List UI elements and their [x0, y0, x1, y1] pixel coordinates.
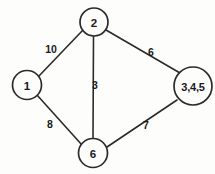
edge-2-345: [106, 30, 180, 73]
edge-weight-1-6: 8: [47, 118, 53, 130]
edge-6-345: [107, 100, 177, 147]
edge-weight-1-2: 10: [45, 43, 57, 55]
edge-weights-layer: 10 6 3 8 7: [45, 43, 154, 131]
node-2[interactable]: 2: [80, 8, 108, 36]
edges-layer: [37, 30, 180, 147]
node-1[interactable]: 1: [13, 71, 42, 100]
edge-weight-2-345: 6: [148, 46, 154, 58]
node-1-label: 1: [24, 80, 31, 92]
node-3-4-5-label: 3,4,5: [181, 81, 205, 93]
graph-diagram-canvas: 2 1 3,4,5 6 10 6 3 8 7: [0, 0, 215, 174]
node-2-label: 2: [91, 17, 97, 29]
graph-svg: 2 1 3,4,5 6 10 6 3 8 7: [0, 0, 215, 174]
node-6[interactable]: 6: [79, 139, 108, 168]
edge-weight-6-345: 7: [143, 119, 149, 131]
node-6-label: 6: [90, 148, 96, 160]
edge-weight-2-6: 3: [92, 79, 98, 91]
edge-1-6: [37, 95, 82, 145]
node-3-4-5[interactable]: 3,4,5: [174, 67, 212, 105]
